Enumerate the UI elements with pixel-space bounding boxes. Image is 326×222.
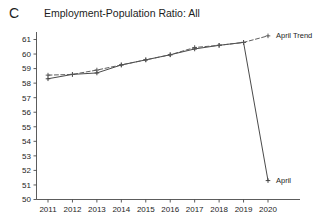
data-point-marker	[241, 40, 246, 45]
y-tick-label: 60	[22, 50, 31, 59]
x-tick-label: 2020	[259, 205, 277, 214]
data-point-marker	[168, 52, 173, 57]
y-tick-label: 53	[22, 152, 31, 161]
y-tick-label: 52	[22, 166, 31, 175]
data-point-marker	[266, 34, 271, 39]
y-tick-label: 59	[22, 64, 31, 73]
x-axis-ticks: 2011201220132014201520162017201820192020	[39, 200, 277, 214]
x-tick-label: 2019	[235, 205, 253, 214]
data-series	[46, 34, 271, 183]
y-tick-label: 50	[22, 195, 31, 204]
x-tick-label: 2016	[161, 205, 179, 214]
y-tick-label: 55	[22, 123, 31, 132]
data-point-marker	[95, 68, 100, 73]
y-tick-label: 61	[22, 35, 31, 44]
y-tick-label: 58	[22, 79, 31, 88]
y-axis-ticks: 505152535455565758596061	[22, 35, 36, 204]
x-tick-label: 2015	[137, 205, 155, 214]
data-point-marker	[266, 178, 271, 183]
x-tick-label: 2017	[186, 205, 204, 214]
data-point-marker	[217, 43, 222, 48]
data-point-marker	[143, 58, 148, 63]
x-tick-label: 2012	[64, 205, 82, 214]
y-tick-label: 57	[22, 94, 31, 103]
chart-figure: C Employment-Population Ratio: All 50515…	[0, 0, 326, 222]
series-line-april-trend	[48, 36, 268, 75]
series-annotation-label: April Trend	[276, 31, 312, 40]
y-tick-label: 51	[22, 181, 31, 190]
x-tick-label: 2011	[39, 205, 57, 214]
series-line-april	[48, 42, 268, 180]
series-annotations: April TrendApril	[276, 31, 312, 185]
data-point-marker	[119, 63, 124, 68]
x-tick-label: 2014	[112, 205, 130, 214]
x-tick-label: 2013	[88, 205, 106, 214]
series-annotation-label: April	[276, 176, 291, 185]
data-point-marker	[46, 73, 51, 78]
line-chart-plot: 505152535455565758596061 201120122013201…	[0, 0, 326, 222]
axis-lines	[37, 32, 301, 200]
x-tick-label: 2018	[210, 205, 228, 214]
y-tick-label: 56	[22, 108, 31, 117]
data-point-marker	[70, 72, 75, 77]
y-tick-label: 54	[22, 137, 31, 146]
